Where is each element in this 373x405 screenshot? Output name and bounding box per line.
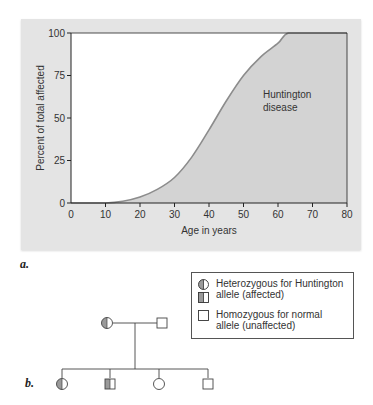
disease-annotation-line1: Huntington [263,89,311,100]
parent-female-heterozygous [102,318,113,329]
huntington-onset-chart: 01020304050607080 0255075100 Age in year… [0,0,373,260]
child-male-heterozygous [105,379,115,389]
x-axis-label: Age in years [181,225,237,236]
legend-homozygous-line1: Homozygous for normal [216,309,322,320]
y-tick-label: 75 [54,70,66,81]
legend-homozygous-line2: allele (unaffected) [216,320,322,331]
parent-male-normal [157,318,167,328]
legend-heterozygous-line2: allele (affected) [216,289,343,300]
x-tick-label: 50 [238,209,250,220]
x-tick-label: 70 [307,209,319,220]
x-tick-label: 40 [203,209,215,220]
x-tick-label: 80 [341,209,353,220]
child-male-normal [203,379,213,389]
figure-label-b: b. [25,376,34,391]
x-ticks: 01020304050607080 [68,203,353,220]
x-tick-label: 30 [169,209,181,220]
legend-item-homozygous: Homozygous for normal allele (unaffected… [198,309,322,331]
y-tick-label: 50 [54,113,66,124]
half-filled-square-icon [198,292,209,303]
legend-heterozygous-line1: Heterozygous for Huntington [216,278,343,289]
y-ticks: 0255075100 [48,28,71,209]
legend-item-heterozygous: Heterozygous for Huntington allele (affe… [198,278,343,303]
x-tick-label: 60 [272,209,284,220]
y-tick-label: 100 [48,28,65,39]
x-tick-label: 0 [68,209,74,220]
figure-label-a: a. [20,257,29,272]
y-tick-label: 0 [59,198,65,209]
half-filled-circle-icon [198,279,209,290]
y-tick-label: 25 [54,155,66,166]
child-female-normal [154,379,165,390]
x-tick-label: 10 [100,209,112,220]
x-tick-label: 20 [134,209,146,220]
disease-annotation-line2: disease [263,102,298,113]
y-axis-label: Percent of total affected [35,65,46,170]
empty-square-icon [198,310,209,321]
child-female-heterozygous [57,379,68,390]
pedigree-legend: Heterozygous for Huntington allele (affe… [191,272,354,339]
